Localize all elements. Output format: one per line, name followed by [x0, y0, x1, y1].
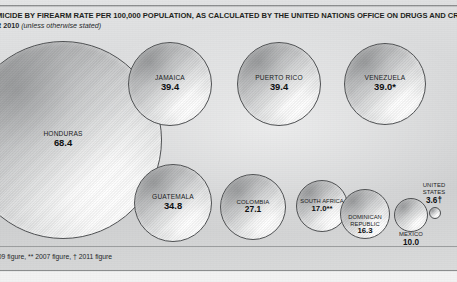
bubble-label-name: JAMAICA	[129, 74, 211, 82]
bubble-label-value: 3.6†	[412, 196, 456, 205]
divider-footnote	[0, 246, 457, 247]
subtitle-qualifier: (unless otherwise stated)	[21, 21, 101, 30]
bubble-label-name: HONDURAS	[0, 130, 161, 138]
bubble-label-name-line1: UNITEDSTATES	[412, 182, 456, 196]
bubble-label-name: COLOMBIA	[221, 198, 285, 205]
page-subtitle: R 2010 (unless otherwise stated)	[0, 21, 296, 30]
bubble-puerto-rico[interactable]: PUERTO RICO 39.4	[237, 42, 321, 126]
bubble-label-value: 39.0*	[345, 82, 425, 93]
subtitle-year: R 2010	[0, 21, 19, 30]
bubble-dominican-republic[interactable]: DOMINICANREPUBLIC 16.3	[340, 189, 390, 239]
bubble-label-value: 10.0	[390, 238, 432, 247]
bubble-label-united-states: UNITEDSTATES 3.6†	[412, 182, 456, 205]
divider-top-highlight	[0, 6, 457, 7]
bubble-label-mexico: MEXICO 10.0	[390, 231, 432, 247]
infographic-panel: MICIDE BY FIREARM RATE PER 100,000 POPUL…	[0, 0, 457, 282]
bubble-label-name: VENEZUELA	[345, 74, 425, 82]
bubble-guatemala[interactable]: GUATEMALA 34.8	[134, 164, 212, 242]
bubble-label-value: 68.4	[0, 138, 161, 149]
bubble-label-name: DOMINICANREPUBLIC	[337, 214, 393, 227]
bubble-colombia[interactable]: COLOMBIA 27.1	[220, 174, 286, 240]
page-title: MICIDE BY FIREARM RATE PER 100,000 POPUL…	[0, 11, 456, 21]
bubble-label-value: 34.8	[135, 201, 211, 212]
bubble-label-name: MEXICO	[390, 231, 432, 238]
bubble-venezuela[interactable]: VENEZUELA 39.0*	[344, 43, 426, 125]
bubble-jamaica[interactable]: JAMAICA 39.4	[128, 42, 212, 126]
bubble-label-value: 39.4	[238, 82, 320, 93]
bubble-label-name: GUATEMALA	[135, 193, 211, 201]
bubble-label-name: PUERTO RICO	[238, 74, 320, 82]
bubble-label-value: 39.4	[129, 82, 211, 93]
footnote-text: 009 figure, ** 2007 figure, † 2011 figur…	[0, 253, 112, 260]
bubble-united-states[interactable]	[429, 207, 441, 219]
footer-band	[0, 272, 457, 282]
bubble-label-value: 27.1	[221, 205, 285, 214]
